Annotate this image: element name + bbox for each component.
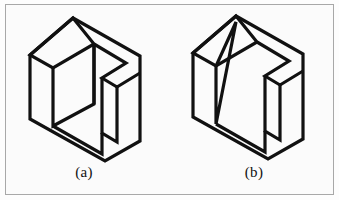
- panel-b-caption: (b): [224, 164, 284, 181]
- panel-a-caption: (a): [54, 164, 114, 181]
- panel-b-notch-right-column: [265, 76, 280, 140]
- panel-a-lower-inner: [53, 126, 102, 154]
- panel-a-notch-right-column: [102, 78, 117, 142]
- panel-b-slanted-triangle: [216, 22, 236, 124]
- figure-linework: [30, 16, 303, 161]
- figure-svg-canvas: [0, 0, 339, 200]
- figure-plate: (a) (b): [0, 0, 339, 200]
- panel-b-inner-floor: [216, 124, 265, 152]
